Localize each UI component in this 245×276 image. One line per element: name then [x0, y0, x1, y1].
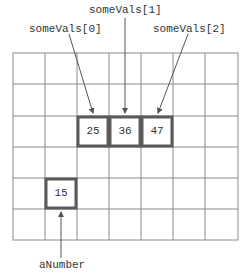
cell-value-somevals-2: 47: [141, 116, 173, 147]
cell-value-anumber: 15: [45, 178, 77, 209]
label-somevals-0: someVals[0]: [29, 23, 102, 35]
memory-diagram: someVals[1] someVals[0] someVals[2] aNum…: [0, 0, 245, 276]
cell-value-somevals-1: 36: [109, 116, 141, 147]
label-somevals-2: someVals[2]: [153, 23, 226, 35]
label-anumber: aNumber: [39, 259, 85, 271]
cell-value-somevals-0: 25: [77, 116, 109, 147]
label-somevals-1: someVals[1]: [89, 4, 162, 16]
